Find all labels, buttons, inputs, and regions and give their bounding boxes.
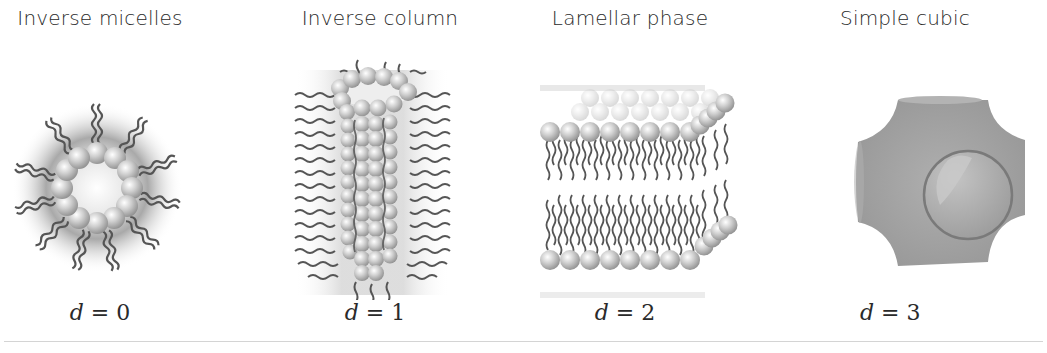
equals-sign: = <box>91 300 109 325</box>
bottom-rule <box>4 341 1043 342</box>
dimension-label: d = 2 <box>470 300 780 325</box>
equals-sign: = <box>616 300 634 325</box>
dimension-symbol: d <box>595 300 609 325</box>
equals-sign: = <box>881 300 899 325</box>
dimension-value: 1 <box>391 300 405 325</box>
panel-simple-cubic: Simple cubic d = 3 <box>780 0 1047 340</box>
inverse-column-illustration <box>260 0 520 300</box>
dimension-value: 0 <box>116 300 130 325</box>
panel-inverse-column: Inverse column <box>260 0 520 340</box>
inverse-micelle-illustration <box>0 0 200 300</box>
simple-cubic-illustration <box>780 0 1047 300</box>
dimension-symbol: d <box>345 300 359 325</box>
dimension-symbol: d <box>860 300 874 325</box>
dimension-symbol: d <box>70 300 84 325</box>
dimension-value: 2 <box>641 300 655 325</box>
lamellar-phase-illustration <box>520 0 780 300</box>
panel-inverse-micelles: Inverse micelles <box>0 0 200 340</box>
dimension-value: 3 <box>907 300 921 325</box>
dimension-label: d = 3 <box>860 300 921 325</box>
dimension-label: d = 0 <box>0 300 200 325</box>
equals-sign: = <box>366 300 384 325</box>
panel-lamellar-phase: Lamellar phase <box>520 0 780 340</box>
